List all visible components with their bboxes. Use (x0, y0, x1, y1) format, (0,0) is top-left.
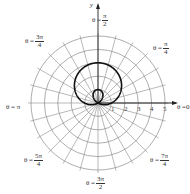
angle-text: θ = π (6, 104, 20, 111)
fraction: 7π 4 (160, 153, 169, 168)
fraction-den: 4 (37, 161, 41, 168)
angle-label-pi-over-4: θ = π 4 (153, 41, 169, 56)
fraction-den: 4 (38, 42, 42, 49)
fraction: 5π 4 (34, 153, 43, 168)
angle-prefix: θ = (153, 45, 162, 52)
angle-label-3pi-over-4: θ = 3π 4 (25, 34, 44, 49)
fraction: π 2 (102, 13, 108, 28)
angle-prefix: θ = (25, 38, 34, 45)
fraction: 3π 4 (35, 34, 44, 49)
radial-tick-4: 4 (150, 105, 154, 113)
angle-prefix: θ = (86, 180, 95, 187)
fraction-den: 2 (99, 184, 103, 191)
fraction-den: 4 (164, 49, 168, 56)
fraction: π 4 (163, 41, 169, 56)
angle-label-pi-over-2: θ = π 2 (92, 13, 108, 28)
angle-prefix: θ = (150, 157, 159, 164)
angle-label-7pi-over-4: θ = 7π 4 (150, 153, 169, 168)
radial-tick-5: 5 (163, 105, 167, 113)
angle-label-3pi-over-2: θ = 3π 2 (86, 176, 105, 191)
angle-prefix: θ = (24, 157, 33, 164)
radial-tick-3: 3 (137, 105, 141, 113)
angle-prefix: θ = (92, 17, 101, 24)
angle-label-pi: θ = π (6, 104, 20, 111)
y-axis-label: y (90, 1, 93, 9)
angle-label-5pi-over-4: θ = 5π 4 (24, 153, 43, 168)
angle-value: 0 (186, 104, 190, 111)
angle-label-0: θ = 0 (177, 104, 190, 111)
fraction: 3π 2 (96, 176, 105, 191)
fraction-den: 4 (163, 161, 167, 168)
radial-tick-1: 1 (111, 105, 115, 113)
fraction-den: 2 (103, 21, 107, 28)
radial-tick-2: 2 (124, 105, 128, 113)
angle-prefix: θ = (177, 104, 186, 111)
